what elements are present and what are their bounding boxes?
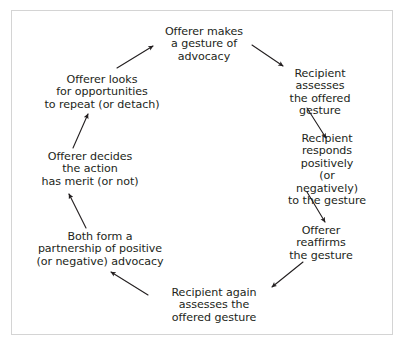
cycle-node-recipient-responds: Recipient responds positively (or negati… <box>288 133 367 207</box>
cycle-node-offerer-makes-gesture: Offerer makes a gesture of advocacy <box>165 26 243 63</box>
cycle-node-offerer-looks-opportunities: Offerer looks for opportunities to repea… <box>45 74 160 111</box>
cycle-node-offerer-reaffirms-gesture: Offerer reaffirms the gesture <box>279 225 364 262</box>
cycle-node-offerer-decides-merit: Offerer decides the action has merit (or… <box>41 151 138 188</box>
cycle-node-recipient-assesses-gesture: Recipient assesses the offered gesture <box>277 68 363 118</box>
cycle-node-both-form-partnership: Both form a partnership of positive (or … <box>36 231 163 268</box>
diagram-page: Offerer makes a gesture of advocacy Reci… <box>0 0 406 347</box>
cycle-node-recipient-again-assesses: Recipient again assesses the offered ges… <box>171 287 256 324</box>
